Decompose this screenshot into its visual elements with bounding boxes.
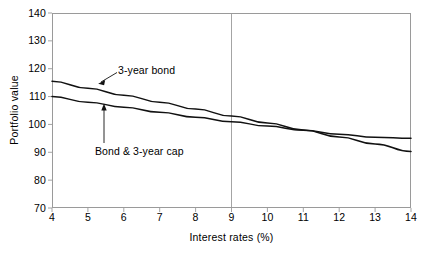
x-tick-label: 8 xyxy=(186,212,206,223)
x-tick-label: 13 xyxy=(365,212,385,223)
portfolio-value-chart: 140 130 120 110 100 90 80 70 4 5 6 7 8 9… xyxy=(0,0,429,260)
y-tick-label: 130 xyxy=(12,35,46,46)
3-year-bond-label: 3-year bond xyxy=(118,64,175,76)
x-tick-label: 4 xyxy=(42,212,62,223)
x-tick-label: 5 xyxy=(78,212,98,223)
y-tick-label: 80 xyxy=(12,175,46,186)
y-axis-title: Portfolio value xyxy=(8,65,20,155)
x-tick-label: 14 xyxy=(401,212,421,223)
x-tick-label: 9 xyxy=(222,212,242,223)
x-tick-label: 6 xyxy=(114,212,134,223)
x-tick-label: 12 xyxy=(329,212,349,223)
bond-and-cap-arrow xyxy=(101,104,106,143)
y-tick-label: 70 xyxy=(12,203,46,214)
y-axis-ticks xyxy=(48,13,52,208)
3-year-bond-arrow xyxy=(98,73,117,86)
x-tick-label: 11 xyxy=(293,212,313,223)
x-tick-label: 10 xyxy=(257,212,277,223)
bond-and-cap-label: Bond & 3-year cap xyxy=(95,145,184,157)
x-tick-label: 7 xyxy=(150,212,170,223)
y-tick-label: 140 xyxy=(12,8,46,19)
x-axis-title: Interest rates (%) xyxy=(52,231,411,243)
